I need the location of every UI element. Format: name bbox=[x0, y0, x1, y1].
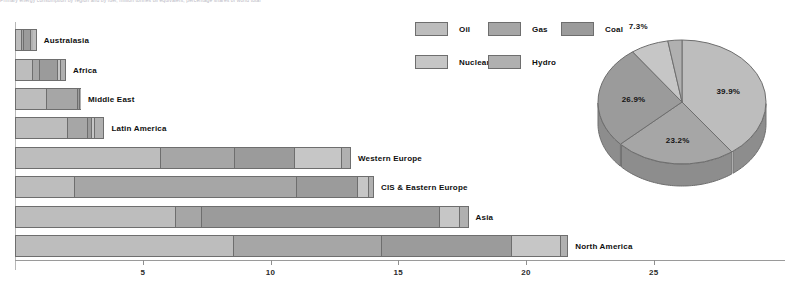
legend-label: Hydro bbox=[532, 58, 556, 67]
bar-segment-coal bbox=[40, 60, 58, 80]
bar-segment-nuclear bbox=[295, 148, 342, 168]
bar-segment-hydro bbox=[95, 118, 104, 138]
stacked-bar[interactable] bbox=[15, 176, 374, 198]
pie-label-gas: 23.2% bbox=[666, 135, 690, 144]
fuel-share-pie-chart: 39.9%23.2%26.9%7.3%2.7% bbox=[578, 20, 788, 195]
x-tick bbox=[143, 260, 144, 265]
bar-segment-oil bbox=[16, 236, 234, 256]
legend-item-oil[interactable]: Oil bbox=[415, 22, 470, 36]
bar-segment-hydro bbox=[561, 236, 567, 256]
bar-segment-oil bbox=[16, 148, 161, 168]
bar-segment-gas bbox=[161, 148, 235, 168]
x-tick-label: 20 bbox=[521, 268, 530, 277]
stacked-bar[interactable] bbox=[15, 117, 104, 139]
bar-segment-nuclear bbox=[358, 177, 369, 197]
x-tick-label: 25 bbox=[649, 268, 658, 277]
bar-segment-gas bbox=[176, 207, 202, 227]
x-axis-line bbox=[15, 260, 785, 261]
bar-category-label: Australasia bbox=[44, 36, 89, 45]
bar-segment-hydro bbox=[342, 148, 350, 168]
bar-segment-gas bbox=[234, 236, 382, 256]
bar-category-label: Asia bbox=[476, 213, 494, 222]
chart-page: Primary energy consumption by region and… bbox=[0, 0, 797, 287]
bar-category-label: Middle East bbox=[88, 95, 135, 104]
bar-segment-nuclear bbox=[440, 207, 460, 227]
bar-segment-coal bbox=[235, 148, 295, 168]
x-tick bbox=[526, 260, 527, 265]
stacked-bar[interactable] bbox=[15, 59, 66, 81]
cropped-caption: Primary energy consumption by region and… bbox=[0, 0, 797, 7]
x-tick bbox=[271, 260, 272, 265]
bar-segment-gas bbox=[75, 177, 297, 197]
x-tick-label: 5 bbox=[140, 268, 145, 277]
stacked-bar[interactable] bbox=[15, 235, 568, 257]
x-tick-label: 15 bbox=[394, 268, 403, 277]
bar-segment-oil bbox=[16, 89, 47, 109]
pie-label-hydro: 2.7% bbox=[664, 0, 683, 1]
bar-category-label: Western Europe bbox=[358, 154, 422, 163]
bar-segment-coal bbox=[202, 207, 440, 227]
legend-swatch-hydro bbox=[488, 55, 521, 69]
bar-segment-coal bbox=[297, 177, 358, 197]
legend-item-gas[interactable]: Gas bbox=[488, 22, 548, 36]
x-tick bbox=[398, 260, 399, 265]
bar-category-label: Latin America bbox=[111, 124, 166, 133]
legend-swatch-oil bbox=[415, 22, 448, 36]
pie-label-coal: 26.9% bbox=[622, 94, 646, 103]
pie-svg bbox=[578, 20, 788, 195]
stacked-bar[interactable] bbox=[15, 88, 81, 110]
stacked-bar[interactable] bbox=[15, 29, 37, 51]
bar-segment-oil bbox=[16, 207, 176, 227]
bar-segment-gas bbox=[47, 89, 79, 109]
legend-item-hydro[interactable]: Hydro bbox=[488, 55, 556, 69]
bar-segment-nuclear bbox=[512, 236, 561, 256]
bar-row: North America bbox=[15, 235, 797, 257]
bar-segment-coal bbox=[24, 30, 31, 50]
bar-category-label: CIS & Eastern Europe bbox=[381, 183, 468, 192]
legend-swatch-gas bbox=[488, 22, 521, 36]
pie-label-nuclear: 7.3% bbox=[629, 22, 648, 31]
legend-label: Nuclear bbox=[459, 58, 490, 67]
bar-segment-coal bbox=[382, 236, 512, 256]
bar-category-label: North America bbox=[575, 242, 632, 251]
bar-segment-hydro bbox=[31, 30, 33, 50]
legend-item-nuclear[interactable]: Nuclear bbox=[415, 55, 490, 69]
bar-segment-hydro bbox=[61, 60, 65, 80]
legend-swatch-nuclear bbox=[415, 55, 448, 69]
bar-segment-gas bbox=[68, 118, 88, 138]
pie-label-oil: 39.9% bbox=[716, 86, 740, 95]
bar-row: Asia bbox=[15, 206, 797, 228]
stacked-bar[interactable] bbox=[15, 206, 469, 228]
x-tick bbox=[654, 260, 655, 265]
legend-label: Oil bbox=[459, 25, 470, 34]
bar-segment-hydro bbox=[460, 207, 468, 227]
legend-label: Gas bbox=[532, 25, 548, 34]
bar-category-label: Africa bbox=[73, 66, 97, 75]
bar-segment-oil bbox=[16, 60, 33, 80]
bar-segment-oil bbox=[16, 118, 68, 138]
stacked-bar[interactable] bbox=[15, 147, 351, 169]
bar-segment-hydro bbox=[369, 177, 373, 197]
x-tick-label: 10 bbox=[266, 268, 275, 277]
bar-segment-oil bbox=[16, 177, 75, 197]
